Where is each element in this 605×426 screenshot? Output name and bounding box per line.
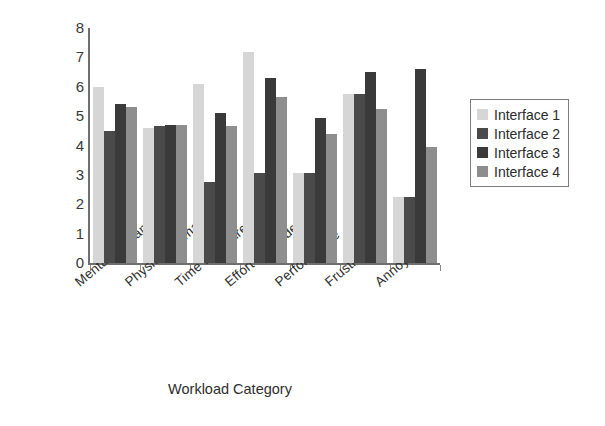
bar	[315, 118, 326, 263]
bar	[343, 94, 354, 263]
legend-swatch-icon	[477, 109, 488, 120]
legend-item: Interface 2	[477, 124, 560, 143]
bar	[126, 107, 137, 263]
bar	[276, 97, 287, 263]
bar	[254, 173, 265, 263]
bar	[226, 126, 237, 263]
bar	[415, 69, 426, 263]
bar	[154, 126, 165, 263]
bar	[376, 109, 387, 263]
legend-label: Interface 1	[494, 107, 560, 123]
bar	[165, 125, 176, 263]
bar	[354, 94, 365, 263]
legend-item: Interface 3	[477, 143, 560, 162]
legend-label: Interface 3	[494, 145, 560, 161]
bar	[426, 147, 437, 263]
bar	[393, 197, 404, 263]
legend-item: Interface 1	[477, 105, 560, 124]
chart-legend: Interface 1Interface 2Interface 3Interfa…	[470, 99, 569, 187]
legend-swatch-icon	[477, 166, 488, 177]
bar	[143, 128, 154, 263]
bar	[176, 125, 187, 263]
bar	[326, 134, 337, 263]
x-axis-title: Workload Category	[0, 381, 460, 397]
bar	[104, 131, 115, 263]
legend-swatch-icon	[477, 147, 488, 158]
bar	[115, 104, 126, 263]
bar	[365, 72, 376, 263]
bar	[243, 52, 254, 264]
bar	[404, 197, 415, 263]
legend-swatch-icon	[477, 128, 488, 139]
bar	[93, 87, 104, 263]
legend-label: Interface 2	[494, 126, 560, 142]
bar	[215, 113, 226, 263]
legend-item: Interface 4	[477, 162, 560, 181]
bar	[204, 182, 215, 263]
bar	[193, 84, 204, 263]
bar-chart: 012345678 Mental DemandPhysical DemandTi…	[0, 0, 605, 426]
bar	[304, 173, 315, 263]
legend-label: Interface 4	[494, 164, 560, 180]
bar	[265, 78, 276, 263]
bar	[293, 173, 304, 263]
